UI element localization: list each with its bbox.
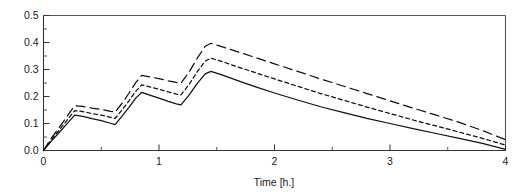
x-tick-label-3: 3 xyxy=(387,155,393,167)
plot-frame xyxy=(44,16,506,151)
chart-figure: 0.00.10.20.30.40.5 01234 Time [h.] xyxy=(0,0,520,192)
x-axis-ticks xyxy=(44,145,506,151)
y-tick-label-0: 0.0 xyxy=(24,144,39,156)
cropped-title-ghost xyxy=(0,0,520,7)
y-axis-tick-labels: 0.00.10.20.30.40.5 xyxy=(24,9,39,156)
y-tick-label-4: 0.4 xyxy=(24,36,39,48)
y-tick-label-5: 0.5 xyxy=(24,9,39,21)
x-axis-title: Time [h.] xyxy=(254,176,295,188)
plot-canvas: 0.00.10.20.30.40.5 01234 Time [h.] xyxy=(0,0,520,192)
series-line-lower-profile xyxy=(44,71,506,150)
x-tick-label-1: 1 xyxy=(156,155,162,167)
x-tick-label-0: 0 xyxy=(41,155,47,167)
series-line-upper-profile xyxy=(44,43,506,150)
x-tick-label-4: 4 xyxy=(503,155,509,167)
x-axis-tick-labels: 01234 xyxy=(41,155,509,167)
y-axis-ticks xyxy=(44,16,50,151)
y-tick-label-2: 0.2 xyxy=(24,90,39,102)
y-tick-label-3: 0.3 xyxy=(24,63,39,75)
x-tick-label-2: 2 xyxy=(272,155,278,167)
series-line-middle-profile xyxy=(44,58,506,150)
data-series-group xyxy=(44,43,506,150)
y-tick-label-1: 0.1 xyxy=(24,117,39,129)
